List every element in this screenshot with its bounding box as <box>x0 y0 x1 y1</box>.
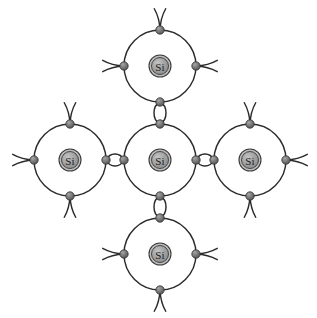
free-left-up-electron <box>66 120 74 128</box>
nucleus-left: Si <box>59 149 81 171</box>
free-bottom-left-electron <box>120 250 128 258</box>
free-right-down-electron <box>246 192 254 200</box>
free-top-up-electron <box>156 26 164 34</box>
nucleus-label-top: Si <box>155 61 165 73</box>
bond-center-top-electron-1 <box>156 98 164 106</box>
bond-center-bottom-electron-1 <box>156 214 164 222</box>
free-top-right-electron <box>192 62 200 70</box>
nucleus-bottom: Si <box>149 243 171 265</box>
lattice-canvas: SiSiSiSiSi <box>0 0 317 318</box>
nucleus-right: Si <box>239 149 261 171</box>
free-left-down-electron <box>66 192 74 200</box>
silicon-lattice-diagram: SiSiSiSiSi <box>0 0 317 318</box>
free-right-up-electron <box>246 120 254 128</box>
nucleus-label-left: Si <box>65 155 75 167</box>
free-right-right-electron <box>282 156 290 164</box>
nucleus-label-bottom: Si <box>155 249 165 261</box>
free-left-left-electron <box>30 156 38 164</box>
nucleus-label-center: Si <box>155 155 165 167</box>
nucleus-center: Si <box>149 149 171 171</box>
free-top-left-electron <box>120 62 128 70</box>
free-bottom-down-electron <box>156 286 164 294</box>
bond-center-left-electron-1 <box>102 156 110 164</box>
bond-center-right-electron-0 <box>192 156 200 164</box>
bond-center-bottom-electron-0 <box>156 192 164 200</box>
nucleus-label-right: Si <box>245 155 255 167</box>
nucleus-top: Si <box>149 55 171 77</box>
bond-center-right-electron-1 <box>210 156 218 164</box>
bond-center-top-electron-0 <box>156 120 164 128</box>
bond-center-left-electron-0 <box>120 156 128 164</box>
free-bottom-right-electron <box>192 250 200 258</box>
